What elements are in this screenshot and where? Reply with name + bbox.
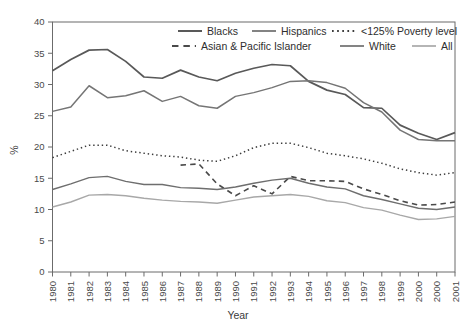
y-tick-label: 5 <box>39 235 44 246</box>
y-tick-label: 30 <box>34 79 45 90</box>
x-tick-label: 1995 <box>322 281 333 302</box>
legend-label: <125% Poverty level <box>361 25 457 37</box>
y-tick-label: 25 <box>34 110 45 121</box>
y-tick-label: 10 <box>34 204 45 215</box>
x-tick-label: 2000 <box>431 281 442 302</box>
x-axis-title: Year <box>227 309 249 321</box>
x-tick-label: 1980 <box>47 281 58 302</box>
legend-item: Asian & Pacific Islander <box>172 40 312 52</box>
series-line <box>53 176 456 209</box>
y-axis-tick-labels: 0510152025303540 <box>34 16 45 277</box>
series-line <box>53 50 456 140</box>
x-tick-label: 1991 <box>248 281 259 302</box>
y-tick-label: 20 <box>34 141 45 152</box>
x-tick-label: 1990 <box>230 281 241 302</box>
legend-item: Blacks <box>178 25 238 37</box>
x-tick-label: 1985 <box>139 281 150 302</box>
legend-item: All <box>412 40 453 52</box>
x-tick-label: 1983 <box>102 281 113 302</box>
y-tick-label: 15 <box>34 173 45 184</box>
line-chart: 0510152025303540 19801981198219831984198… <box>0 0 476 330</box>
x-tick-label: 1997 <box>358 281 369 302</box>
x-tick-label: 1994 <box>303 281 314 302</box>
legend-label: White <box>369 40 396 52</box>
x-tick-label: 1989 <box>212 281 223 302</box>
chart-figure: 0510152025303540 19801981198219831984198… <box>0 0 476 330</box>
series-line <box>53 143 456 175</box>
x-tick-label: 1982 <box>84 281 95 302</box>
x-tick-label: 1992 <box>267 281 278 302</box>
x-tick-label: 1993 <box>285 281 296 302</box>
x-tick-label: 2000 <box>413 281 424 302</box>
axis-frame <box>53 22 456 272</box>
x-tick-label: 2001 <box>450 281 461 302</box>
legend-item: Hispanics <box>252 25 327 37</box>
legend-label: Asian & Pacific Islander <box>201 40 312 52</box>
x-tick-label: 1986 <box>157 281 168 302</box>
y-axis-ticks <box>48 22 53 272</box>
x-tick-label: 1984 <box>120 281 131 302</box>
x-tick-label: 1996 <box>340 281 351 302</box>
data-series-group <box>53 50 456 220</box>
legend-item: <125% Poverty level <box>332 25 457 37</box>
series-line <box>53 81 456 141</box>
x-tick-label: 1999 <box>395 281 406 302</box>
x-tick-label: 1981 <box>65 281 76 302</box>
x-axis-tick-labels: 1980198119821983198419851986198719881989… <box>47 281 461 302</box>
x-tick-label: 1998 <box>376 281 387 302</box>
x-tick-label: 1987 <box>175 281 186 302</box>
y-axis-title: % <box>8 145 20 154</box>
chart-legend: BlacksHispanics<125% Poverty levelAsian … <box>172 25 457 52</box>
y-tick-label: 35 <box>34 48 45 59</box>
legend-label: All <box>441 40 453 52</box>
legend-label: Blacks <box>207 25 238 37</box>
y-tick-label: 40 <box>34 16 45 27</box>
x-axis-ticks <box>53 272 456 277</box>
legend-label: Hispanics <box>281 25 327 37</box>
y-tick-label: 0 <box>39 266 44 277</box>
plot-border <box>53 22 456 272</box>
x-tick-label: 1988 <box>193 281 204 302</box>
legend-item: White <box>340 40 396 52</box>
